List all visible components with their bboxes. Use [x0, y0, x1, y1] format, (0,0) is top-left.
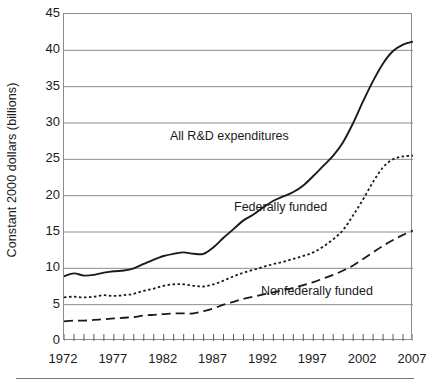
- series-line-1: [64, 156, 413, 298]
- x-axis-tick-label: 2007: [398, 352, 427, 365]
- series-annotation: Nonfederally funded: [261, 285, 373, 298]
- x-axis-tick-label: 1992: [248, 352, 277, 365]
- x-axis-tick-labels: 19721977198219871992199720022007: [0, 352, 430, 374]
- y-axis-tick-label: 40: [46, 42, 60, 55]
- footer-divider: [16, 378, 414, 379]
- y-axis-tick-labels: 051015202530354045: [22, 0, 60, 387]
- y-axis-tick-label: 25: [46, 151, 60, 164]
- series-annotation: Federally funded: [234, 201, 327, 214]
- chart-figure: Constant 2000 dollars (billions) 0510152…: [0, 0, 430, 387]
- gridlines: [64, 50, 413, 304]
- x-axis-tick-label: 2002: [348, 352, 377, 365]
- series-annotation: All R&D expenditures: [170, 130, 289, 143]
- y-axis-tick-label: 15: [46, 224, 60, 237]
- y-axis-tick-label: 30: [46, 115, 60, 128]
- x-axis-tick-label: 1982: [148, 352, 177, 365]
- y-axis-tick-label: 20: [46, 188, 60, 201]
- series-lines: [64, 42, 413, 322]
- y-axis-tick-label: 45: [46, 6, 60, 19]
- y-axis-tick-label: 10: [46, 260, 60, 273]
- x-axis-tick-label: 1972: [49, 352, 78, 365]
- y-axis-tick-label: 35: [46, 79, 60, 92]
- y-axis-label-text: Constant 2000 dollars (billions): [5, 83, 19, 258]
- x-axis-minor-ticks: [64, 334, 413, 341]
- y-axis-tick-label: 0: [53, 333, 60, 346]
- x-axis-tick-label: 1997: [298, 352, 327, 365]
- x-axis-tick-label: 1987: [198, 352, 227, 365]
- y-axis-tick-label: 5: [53, 297, 60, 310]
- series-line-2: [64, 231, 413, 322]
- x-axis-tick-label: 1977: [98, 352, 127, 365]
- y-axis-label: Constant 2000 dollars (billions): [0, 0, 24, 340]
